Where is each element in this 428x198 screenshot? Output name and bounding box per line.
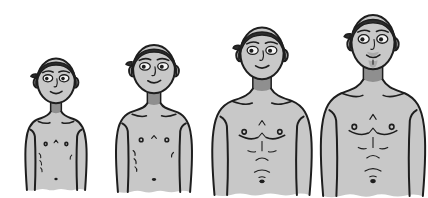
head [126, 45, 179, 93]
body [212, 74, 312, 196]
figure-stage-2 [104, 36, 204, 192]
head [31, 58, 79, 103]
body [25, 100, 86, 191]
figure-stage-1 [12, 48, 100, 190]
figure-stage-3 [208, 20, 316, 195]
body [116, 90, 192, 193]
figure-stage-4 [318, 8, 428, 196]
head [233, 27, 288, 79]
illustration-canvas [0, 0, 428, 198]
body [321, 64, 425, 197]
